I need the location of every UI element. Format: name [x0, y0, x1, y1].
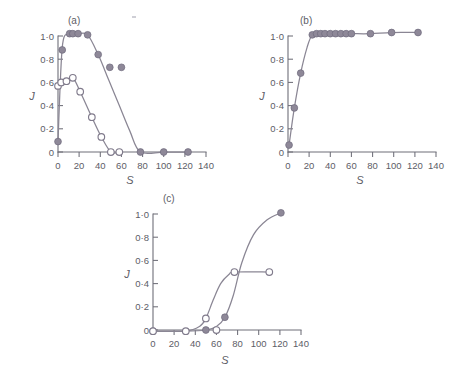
panel-a-ylabel: J: [28, 90, 35, 102]
panel-a-y-tick-labels: 0 0·2 0·4 0·6 0·8 1·0: [40, 31, 54, 158]
data-point: [75, 30, 82, 37]
x-tick-label: 100: [251, 338, 267, 349]
data-point: [59, 47, 66, 54]
x-tick-label: 40: [325, 160, 336, 171]
y-tick-label: 1·0: [270, 31, 284, 42]
y-tick-label: 1·0: [40, 31, 54, 42]
y-tick-label: 0·4: [40, 100, 54, 111]
x-tick-label: 60: [116, 160, 127, 171]
panel-b-plot: (b) 0 0·2 0·4 0·6 0·8 1·0 J: [240, 4, 465, 184]
panel-a-markers: [55, 30, 192, 155]
x-tick-label: 120: [272, 338, 288, 349]
x-tick-label: 80: [137, 160, 148, 171]
panel-b-x-tick-labels: 0 20 40 60 80 100 120 140: [285, 160, 444, 171]
data-point: [106, 64, 113, 71]
panel-b-markers: [286, 29, 422, 148]
x-tick-label: 140: [293, 338, 309, 349]
y-tick-label: 0·8: [135, 232, 149, 243]
x-tick-label: 20: [74, 160, 85, 171]
y-tick-label: 0·2: [270, 123, 284, 134]
data-point: [150, 328, 157, 335]
data-point: [297, 70, 304, 77]
panel-a-plot: (a) 0 0·2 0·4 0·6 0·8 1·0: [10, 4, 220, 184]
x-tick-label: 0: [150, 338, 155, 349]
x-tick-label: 60: [211, 338, 222, 349]
x-tick-label: 140: [428, 160, 444, 171]
x-tick-label: 80: [367, 160, 378, 171]
panel-a: (a) 0 0·2 0·4 0·6 0·8 1·0: [10, 4, 220, 184]
panel-c-plot: (c) 0 0·2 0·4 0·6 0·8 1·0 J: [105, 182, 375, 370]
data-point: [388, 29, 395, 36]
data-point: [95, 51, 102, 58]
x-tick-label: 100: [156, 160, 172, 171]
y-tick-label: 0·8: [270, 54, 284, 65]
data-point: [266, 269, 273, 276]
data-point: [118, 64, 125, 71]
x-tick-label: 20: [304, 160, 315, 171]
series-line-open-circles: [153, 272, 269, 332]
x-tick-label: 120: [177, 160, 193, 171]
data-point: [98, 134, 105, 141]
figure-container: (a) 0 0·2 0·4 0·6 0·8 1·0: [0, 0, 472, 373]
x-tick-label: 60: [346, 160, 357, 171]
data-point: [203, 315, 210, 322]
x-tick-label: 0: [285, 160, 290, 171]
data-point: [63, 78, 70, 85]
panel-c-x-tick-labels: 0 20 40 60 80 100 120 140: [150, 338, 309, 349]
series-line-filled-circles: [289, 32, 418, 145]
y-tick-label: 0: [279, 147, 284, 158]
panel-c-curves: [153, 213, 281, 332]
x-tick-label: 20: [169, 338, 180, 349]
data-point: [213, 327, 220, 334]
scan-speck: [132, 16, 136, 18]
y-tick-label: 1·0: [135, 209, 149, 220]
panel-c-y-tick-labels: 0 0·2 0·4 0·6 0·8 1·0: [135, 209, 149, 336]
y-tick-label: 0·2: [40, 123, 54, 134]
y-tick-label: 0·6: [135, 255, 149, 266]
y-tick-label: 0·4: [135, 278, 149, 289]
panel-c-label: (c): [163, 193, 175, 204]
data-point: [84, 31, 91, 38]
y-tick-label: 0: [144, 325, 149, 336]
data-point: [185, 149, 192, 156]
data-point: [55, 138, 62, 145]
panel-c-xlabel: S: [221, 354, 229, 366]
panel-b-ylabel: J: [258, 90, 265, 102]
panel-c: (c) 0 0·2 0·4 0·6 0·8 1·0 J: [105, 182, 375, 370]
panel-a-x-tick-labels: 0 20 40 60 80 100 120 140: [55, 160, 214, 171]
data-point: [348, 30, 355, 37]
data-point: [160, 149, 167, 156]
data-point: [108, 149, 115, 156]
panel-c-ylabel: J: [123, 268, 130, 280]
panel-b-y-tick-labels: 0 0·2 0·4 0·6 0·8 1·0: [270, 31, 284, 158]
y-tick-label: 0·8: [40, 54, 54, 65]
data-point: [89, 114, 96, 121]
data-point: [231, 269, 238, 276]
data-point: [221, 314, 228, 321]
y-tick-label: 0·4: [270, 100, 284, 111]
data-point: [70, 74, 77, 81]
x-tick-label: 120: [407, 160, 423, 171]
panel-b-curves: [289, 32, 418, 145]
data-point: [278, 209, 285, 216]
panel-a-label: (a): [68, 15, 80, 26]
data-point: [291, 105, 298, 112]
panel-a-x-ticks: [58, 152, 206, 157]
x-tick-label: 100: [386, 160, 402, 171]
x-tick-label: 80: [232, 338, 243, 349]
data-point: [202, 327, 209, 334]
data-point: [415, 29, 422, 36]
y-tick-label: 0·6: [270, 77, 284, 88]
y-tick-label: 0·2: [135, 301, 149, 312]
x-tick-label: 40: [190, 338, 201, 349]
data-point: [182, 328, 189, 335]
y-tick-label: 0: [49, 147, 54, 158]
panel-b-label: (b): [300, 15, 312, 26]
y-tick-label: 0·6: [40, 77, 54, 88]
x-tick-label: 0: [55, 160, 60, 171]
data-point: [137, 149, 144, 156]
data-point: [77, 88, 84, 95]
panel-b-x-ticks: [288, 152, 436, 157]
data-point: [116, 149, 123, 156]
x-tick-label: 140: [198, 160, 214, 171]
